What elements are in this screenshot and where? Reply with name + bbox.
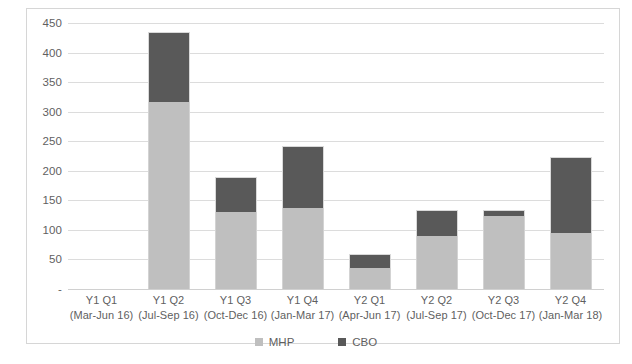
- y-axis-tick-label: 100: [43, 224, 63, 236]
- bar-slot: [336, 23, 403, 289]
- bar-segment-cbo[interactable]: [416, 210, 458, 237]
- bar-segment-cbo[interactable]: [349, 254, 391, 269]
- bar-segment-cbo[interactable]: [215, 177, 257, 212]
- stacked-bar[interactable]: [148, 32, 190, 289]
- bar-slot: [269, 23, 336, 289]
- x-axis-tick-label: Y2 Q4(Jan-Mar 18): [537, 293, 604, 323]
- x-axis-tick-label-daterange: (Oct-Dec 17): [470, 308, 537, 323]
- x-axis-tick-label-quarter: Y2 Q3: [470, 293, 537, 308]
- bar-slot: [135, 23, 202, 289]
- bar-slot: [68, 23, 135, 289]
- x-axis-tick-label-daterange: (Apr-Jun 17): [336, 308, 403, 323]
- bar-segment-mhp[interactable]: [148, 102, 190, 289]
- x-axis-tick-label: Y2 Q1(Apr-Jun 17): [336, 293, 403, 323]
- x-axis-tick-label-quarter: Y2 Q4: [537, 293, 604, 308]
- legend-item-label: CBO: [352, 336, 377, 348]
- x-axis-tick-label-daterange: (Jan-Mar 17): [269, 308, 336, 323]
- x-axis-tick-label: Y1 Q4(Jan-Mar 17): [269, 293, 336, 323]
- bar-segment-mhp[interactable]: [215, 212, 257, 289]
- bar-segment-mhp[interactable]: [282, 208, 324, 289]
- stacked-bar[interactable]: [282, 146, 324, 289]
- x-axis-tick-label-daterange: (Jan-Mar 18): [537, 308, 604, 323]
- x-axis-tick-label-quarter: Y1 Q1: [68, 293, 135, 308]
- stacked-bar[interactable]: [550, 157, 592, 289]
- x-axis-tick-label: Y2 Q3(Oct-Dec 17): [470, 293, 537, 323]
- x-axis-tick-label-daterange: (Jul-Sep 16): [135, 308, 202, 323]
- bar-segment-cbo[interactable]: [148, 32, 190, 102]
- square-marker-icon: [338, 338, 346, 346]
- bar-series-container: [68, 23, 604, 289]
- x-axis-baseline: [68, 289, 604, 290]
- y-axis-tick-label: 300: [43, 106, 63, 118]
- bar-slot: [202, 23, 269, 289]
- x-axis-tick-label: Y1 Q3(Oct-Dec 16): [202, 293, 269, 323]
- y-axis-tick-label: 350: [43, 76, 63, 88]
- bar-slot: [470, 23, 537, 289]
- x-axis-tick-label-quarter: Y1 Q2: [135, 293, 202, 308]
- x-axis-tick-label-daterange: (Mar-Jun 16): [68, 308, 135, 323]
- y-axis-tick-label: 150: [43, 194, 63, 206]
- x-axis-tick-label: Y1 Q1(Mar-Jun 16): [68, 293, 135, 323]
- bar-segment-mhp[interactable]: [349, 268, 391, 289]
- stacked-bar[interactable]: [483, 210, 525, 289]
- chart-legend: MHPCBO: [0, 336, 632, 348]
- bar-segment-cbo[interactable]: [550, 157, 592, 234]
- x-axis-tick-label: Y2 Q2(Jul-Sep 17): [403, 293, 470, 323]
- y-axis-tick-label: 450: [43, 17, 63, 29]
- stacked-bar[interactable]: [416, 210, 458, 289]
- legend-item-label: MHP: [269, 336, 295, 348]
- bar-slot: [403, 23, 470, 289]
- x-axis-tick-label: Y1 Q2(Jul-Sep 16): [135, 293, 202, 323]
- square-marker-icon: [255, 338, 263, 346]
- bar-segment-mhp[interactable]: [416, 236, 458, 289]
- x-axis-tick-label-quarter: Y1 Q3: [202, 293, 269, 308]
- stacked-bar-chart: 45040035030025020015010050- Y1 Q1(Mar-Ju…: [0, 0, 632, 364]
- x-axis-tick-label-quarter: Y1 Q4: [269, 293, 336, 308]
- y-axis-tick-label: 50: [49, 253, 62, 265]
- stacked-bar[interactable]: [215, 177, 257, 289]
- y-axis-tick-label: 200: [43, 165, 63, 177]
- y-axis-tick-label: 400: [43, 47, 63, 59]
- legend-item-mhp[interactable]: MHP: [255, 336, 295, 348]
- stacked-bar[interactable]: [349, 254, 391, 289]
- bar-segment-mhp[interactable]: [483, 216, 525, 289]
- x-axis-tick-label-quarter: Y2 Q2: [403, 293, 470, 308]
- legend-item-cbo[interactable]: CBO: [338, 336, 377, 348]
- x-axis-tick-label-daterange: (Jul-Sep 17): [403, 308, 470, 323]
- x-axis-tick-label-daterange: (Oct-Dec 16): [202, 308, 269, 323]
- y-axis-tick-label: -: [58, 283, 62, 295]
- x-axis: Y1 Q1(Mar-Jun 16)Y1 Q2(Jul-Sep 16)Y1 Q3(…: [68, 293, 604, 323]
- bar-segment-cbo[interactable]: [282, 146, 324, 208]
- bar-segment-mhp[interactable]: [550, 233, 592, 289]
- y-axis-tick-label: 250: [43, 135, 63, 147]
- y-axis: 45040035030025020015010050-: [26, 23, 68, 289]
- x-axis-tick-label-quarter: Y2 Q1: [336, 293, 403, 308]
- bar-slot: [537, 23, 604, 289]
